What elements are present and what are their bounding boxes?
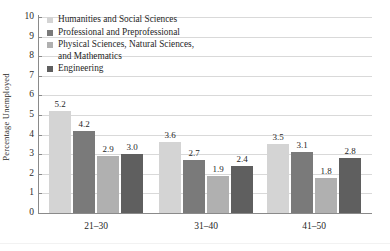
bar-value-label: 2.4 xyxy=(227,155,257,164)
bar-value-label: 3.1 xyxy=(287,141,317,150)
y-tick-label: 10 xyxy=(5,12,34,22)
y-tick-label: 6 xyxy=(5,90,34,100)
legend-swatch-icon xyxy=(47,30,53,36)
bar-value-label: 2.8 xyxy=(335,147,365,156)
legend-label: Professional and Preprofessional xyxy=(58,27,180,39)
legend-swatch-icon xyxy=(47,66,53,72)
y-tick-label: 8 xyxy=(5,51,34,61)
x-category-label: 41–50 xyxy=(247,222,381,232)
bar xyxy=(49,111,71,213)
bar xyxy=(231,166,253,213)
y-tick-label: 4 xyxy=(5,130,34,140)
chart-figure: Percentage Unemployed 012345678910 5.24.… xyxy=(0,0,390,251)
bar xyxy=(183,160,205,213)
bar xyxy=(97,156,119,213)
bar xyxy=(315,178,337,213)
legend-label: Humanities and Social Sciences xyxy=(58,14,177,26)
bar xyxy=(207,176,229,213)
legend-label: Engineering xyxy=(58,63,103,75)
bar xyxy=(267,144,289,213)
legend: Humanities and Social SciencesProfession… xyxy=(47,14,247,76)
y-tick-label: 9 xyxy=(5,32,34,42)
bar-value-label: 1.8 xyxy=(311,167,341,176)
y-tick-label: 7 xyxy=(5,71,34,81)
bar-value-label: 3.0 xyxy=(117,143,147,152)
bar-value-label: 1.9 xyxy=(203,165,233,174)
bar xyxy=(291,152,313,213)
bar xyxy=(339,158,361,213)
legend-swatch-icon xyxy=(47,17,53,23)
bar xyxy=(73,131,95,213)
legend-item: Humanities and Social Sciences xyxy=(47,14,247,26)
legend-item: Engineering xyxy=(47,63,247,75)
bottom-divider xyxy=(0,243,390,244)
y-tick-mark xyxy=(39,213,42,214)
bar-value-label: 4.2 xyxy=(69,120,99,129)
x-axis-line xyxy=(38,213,372,214)
bar-value-label: 3.6 xyxy=(155,131,185,140)
legend-label: Physical Sciences, Natural Sciences, and… xyxy=(58,39,194,62)
bar-value-label: 2.7 xyxy=(179,149,209,158)
bar-value-label: 5.2 xyxy=(45,100,75,109)
y-tick-label: 5 xyxy=(5,110,34,120)
legend-item: Physical Sciences, Natural Sciences, and… xyxy=(47,39,247,62)
y-tick-label: 3 xyxy=(5,149,34,159)
legend-item: Professional and Preprofessional xyxy=(47,27,247,39)
bar xyxy=(121,154,143,213)
y-tick-label: 0 xyxy=(5,208,34,218)
legend-swatch-icon xyxy=(47,42,53,48)
y-tick-label: 2 xyxy=(5,169,34,179)
bar xyxy=(159,142,181,213)
y-tick-label: 1 xyxy=(5,188,34,198)
